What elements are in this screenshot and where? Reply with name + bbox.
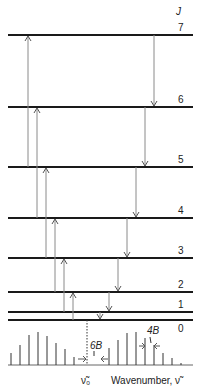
spacing-tick (150, 337, 151, 343)
level-label-j3: 3 (178, 245, 184, 256)
up-transition-0-2 (70, 293, 76, 320)
level-label-j5: 5 (178, 154, 184, 165)
down-transition-3-2 (115, 258, 121, 291)
wavenumber-axis-label: Wavenumber, ν̃ (111, 375, 184, 386)
gap-6b-label: 6B (90, 340, 103, 351)
energy-level-diagram: J 01234567 ν̃₀ Wavenumber, ν̃ 6B 4B (0, 0, 205, 390)
level-label-j2: 2 (178, 279, 184, 290)
down-transition-6-5 (142, 107, 148, 166)
up-transition-2-4 (52, 219, 58, 292)
up-transition-1-3 (61, 259, 67, 312)
down-transition-2-1 (106, 292, 112, 311)
up-transition-4-6 (34, 108, 40, 218)
level-label-j7: 7 (178, 22, 184, 33)
down-transition-7-6 (151, 35, 157, 106)
down-transition-5-4 (133, 167, 139, 217)
down-transition-4-3 (124, 218, 130, 257)
level-label-j4: 4 (178, 205, 184, 216)
spacing-4b-label: 4B (147, 325, 160, 336)
energy-levels: 01234567 (8, 22, 193, 334)
transitions (25, 35, 157, 320)
origin-label: ν̃₀ (81, 375, 90, 386)
up-transition-5-7 (25, 36, 31, 167)
down-transition-1-0 (97, 312, 103, 319)
level-label-j0: 0 (178, 323, 184, 334)
level-label-j6: 6 (178, 94, 184, 105)
up-transition-3-5 (43, 168, 49, 258)
j-axis-label: J (175, 6, 182, 17)
level-label-j1: 1 (178, 299, 184, 310)
